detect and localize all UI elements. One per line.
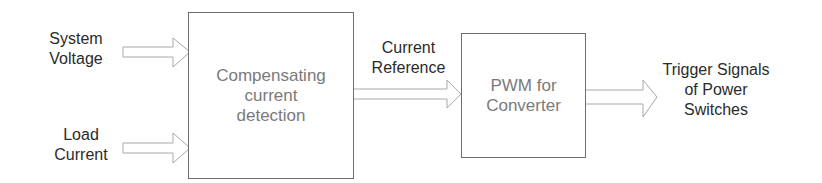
label-line: Voltage: [36, 49, 116, 69]
arrow-current-reference: [353, 80, 461, 108]
input-label-system-voltage: System Voltage: [36, 29, 116, 69]
arrow-load-current: [123, 133, 190, 163]
arrow-system-voltage: [123, 38, 190, 67]
label-line: Trigger Signals: [646, 60, 786, 80]
block-text: PWM for: [486, 76, 561, 96]
block-text: current: [216, 86, 326, 106]
block-text: Converter: [486, 96, 561, 116]
label-line: System: [36, 29, 116, 49]
label-line: Current: [44, 145, 118, 165]
label-line: Reference: [356, 58, 461, 78]
block-text: Compensating: [216, 66, 326, 86]
input-label-load-current: Load Current: [44, 125, 118, 165]
output-label-trigger-signals: Trigger Signals of Power Switches: [646, 60, 786, 120]
block-text: detection: [216, 106, 326, 126]
label-line: Load: [44, 125, 118, 145]
label-current-reference: Current Reference: [356, 38, 461, 78]
block-compensating-current-detection: Compensating current detection: [188, 12, 354, 179]
block-pwm-for-converter: PWM for Converter: [461, 33, 586, 158]
label-line: of Power: [646, 80, 786, 100]
label-line: Switches: [646, 100, 786, 120]
label-line: Current: [356, 38, 461, 58]
